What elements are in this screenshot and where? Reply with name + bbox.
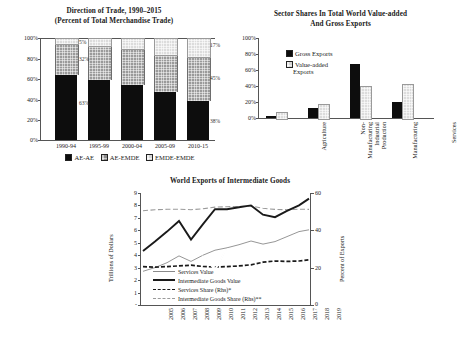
panel2-legend-label-2: Exports xyxy=(293,68,314,75)
panel3-legend-label-1: Intermediate Goods Value xyxy=(178,278,241,284)
panel2-title: Sector Shares In Total World Value-added… xyxy=(228,10,453,29)
label-2010-15-ae-ae: 38% xyxy=(210,118,220,124)
bar-1990-94-emde-emde xyxy=(55,38,79,45)
panel1-ytick-20: 20% xyxy=(16,117,38,123)
series-services-value-smooth xyxy=(203,248,227,270)
panel1-title: Direction of Trade, 1990–2015 (Percent o… xyxy=(0,7,228,26)
bar-2005-09-ae-ae xyxy=(154,92,176,140)
square-black-icon xyxy=(65,154,72,161)
line-thick-icon xyxy=(153,279,175,281)
panel2-catlabel-manufacturing: Manufacturing xyxy=(411,122,418,167)
bar-agriculture-value-added xyxy=(276,112,288,120)
panel2-title-line2: And Gross Exports xyxy=(228,20,453,30)
square-light-icon xyxy=(286,61,293,68)
panel2-catlabel-non: Non- xyxy=(359,122,366,164)
panel1-y-axis xyxy=(40,38,41,141)
label-2010-15-emde-emde: 17% xyxy=(210,42,220,48)
panel3-xlabel-2016: 2016 xyxy=(300,308,306,330)
bar-1990-94-ae-ae xyxy=(55,75,77,140)
panel2-legend-item-gross: Gross Exports xyxy=(286,50,333,57)
line-dashed-thick-icon xyxy=(153,289,175,290)
bar-manufacturing-value-added xyxy=(360,86,372,120)
panel2-catlabel-industrial: Industrial xyxy=(373,122,380,164)
bar-1990-94-ae-emde xyxy=(55,42,79,75)
bar-1995-99-ae-ae xyxy=(88,80,110,140)
panel2-catlabel-manufacturing-sub: Manufacturing xyxy=(366,122,373,164)
panel2-ytick-40: 40% xyxy=(233,83,256,89)
panel1-legend-item-ae-emde: AE-EMDE xyxy=(101,154,141,161)
panel2-legend-item-value-added-line2: Exports xyxy=(293,68,333,75)
bar-nonmfg-gross xyxy=(308,108,318,118)
panel3-legend-label-2: Services Share (Rhs)* xyxy=(178,287,231,293)
panel1-xlabel-1990-94: 1990-94 xyxy=(48,143,84,149)
panel2-legend-label-0: Gross Exports xyxy=(295,50,333,57)
panel3-xlabel-2011: 2011 xyxy=(240,308,246,330)
panel1-legend-label-2: EMDE-EMDE xyxy=(155,154,195,161)
panel1-ytick-0: 0% xyxy=(16,137,38,143)
panel3-xlabel-2019: 2019 xyxy=(336,308,342,330)
panel1-xlabel-2010-15: 2010-15 xyxy=(180,143,216,149)
bar-2000-04-ae-ae xyxy=(121,85,143,140)
panel-world-exports: World Exports of Intermediate Goods Tril… xyxy=(95,170,365,339)
bar-manufacturing-gross xyxy=(350,64,360,118)
panel3-xlabel-2014: 2014 xyxy=(276,308,282,330)
square-black-icon xyxy=(286,50,293,57)
panel2-legend: Gross Exports Value-added Exports xyxy=(286,50,333,75)
panel1-legend-label-1: AE-EMDE xyxy=(110,154,140,161)
panel2-legend-item-value-added: Value-added xyxy=(286,61,333,68)
panel3-xlabel-2018: 2018 xyxy=(324,308,330,330)
panel1-xlabel-2005-09: 2005-09 xyxy=(147,143,183,149)
bar-2010-15-ae-emde xyxy=(187,55,211,101)
label-1990-94-emde-emde: 5% xyxy=(79,39,86,45)
panel2-ytick-0: 0% xyxy=(233,115,256,121)
panel2-y-axis xyxy=(258,38,259,119)
panel3-xlabel-2015: 2015 xyxy=(288,308,294,330)
panel3-legend-item-services-share: Services Share (Rhs)* xyxy=(153,287,231,293)
panel1-legend: AE-AE AE-EMDE EMDE-EMDE xyxy=(40,154,220,161)
panel3-legend-item-services-value: Services Value xyxy=(153,269,213,275)
panel2-ytick-20: 20% xyxy=(233,99,256,105)
square-light-icon xyxy=(146,154,153,161)
bar-nonmfg-value-added xyxy=(318,104,330,120)
panel3-xlabel-2005: 2005 xyxy=(168,308,174,330)
bar-2005-09-emde-emde xyxy=(154,38,178,56)
bar-2000-04-emde-emde xyxy=(121,38,145,50)
bar-agriculture-gross xyxy=(266,116,276,118)
panel-direction-of-trade: Direction of Trade, 1990–2015 (Percent o… xyxy=(0,0,228,168)
panel2-title-line1: Sector Shares In Total World Value-added xyxy=(228,10,453,20)
bar-2010-15-emde-emde xyxy=(187,38,211,58)
panel1-title-line1: Direction of Trade, 1990–2015 xyxy=(0,7,228,17)
panel3-legend-label-0: Services Value xyxy=(178,269,213,275)
line-thin-icon xyxy=(153,271,175,272)
panel3-xlabel-2013: 2013 xyxy=(264,308,270,330)
panel2-legend-label-1: Value-added xyxy=(295,61,328,68)
panel3-xlabel-2007: 2007 xyxy=(192,308,198,330)
panel1-title-line2: (Percent of Total Merchandise Trade) xyxy=(0,17,228,27)
panel3-xlabel-2009: 2009 xyxy=(216,308,222,330)
panel3-legend-item-intermediate-goods-share: Intermediate Goods Share (Rhs)** xyxy=(153,296,261,302)
panel3-xlabel-2012: 2012 xyxy=(252,308,258,330)
square-hatched-icon xyxy=(101,154,108,161)
panel-sector-shares: Sector Shares In Total World Value-added… xyxy=(228,0,453,170)
bar-1995-99-ae-emde xyxy=(88,44,112,80)
panel1-xlabel-2000-04: 2000-04 xyxy=(114,143,150,149)
label-1990-94-ae-ae: 63% xyxy=(79,100,89,106)
panel2-catlabel-agriculture: Agriculture xyxy=(320,122,327,164)
panel3-xlabel-2010: 2010 xyxy=(228,308,234,330)
bar-services-gross xyxy=(392,102,402,118)
panel2-ytick-80: 80% xyxy=(233,51,256,57)
panel1-legend-label-0: AE-AE xyxy=(74,154,94,161)
panel1-ytick-100: 100% xyxy=(16,35,38,41)
bar-2010-15-ae-ae xyxy=(187,101,209,140)
panel1-legend-item-emde-emde: EMDE-EMDE xyxy=(146,154,195,161)
panel1-ytick-40: 40% xyxy=(16,97,38,103)
bar-2005-09-ae-emde xyxy=(154,53,178,92)
label-2010-15-ae-emde: 45% xyxy=(210,75,220,81)
panel2-catlabel-services: Services xyxy=(450,122,457,164)
panel3-xlabel-2006: 2006 xyxy=(180,308,186,330)
panel1-ytick-60: 60% xyxy=(16,76,38,82)
panel3-xlabel-2017: 2017 xyxy=(312,308,318,330)
panel1-legend-item-ae-ae: AE-AE xyxy=(65,154,95,161)
panel3-legend-label-3: Intermediate Goods Share (Rhs)** xyxy=(178,296,261,302)
panel2-ytick-100: 100% xyxy=(233,35,256,41)
